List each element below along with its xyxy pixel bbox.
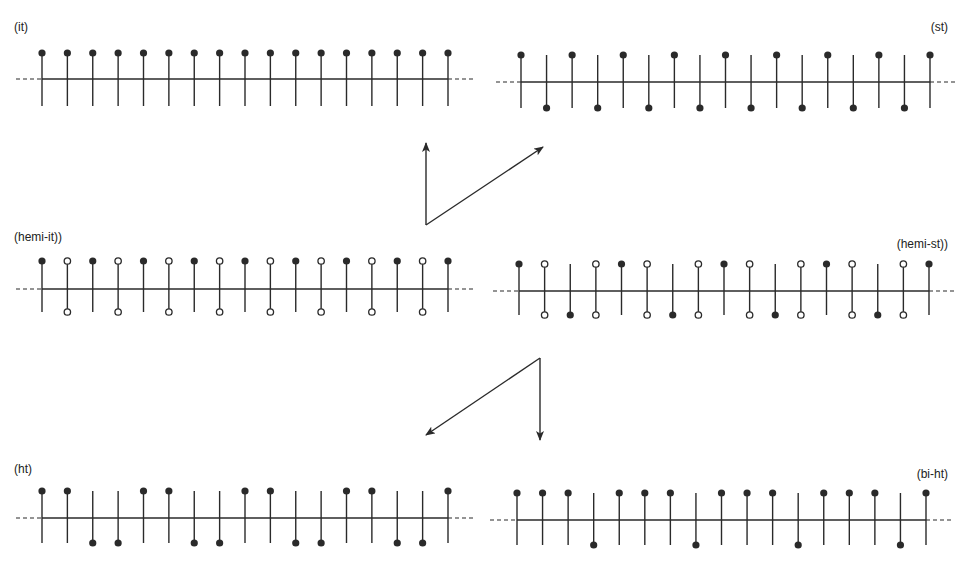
stem [89,491,96,547]
stem [875,51,882,108]
filled-dot-icon [140,49,147,56]
stem [720,260,727,315]
filled-dot-icon [720,260,727,267]
stem [64,487,71,543]
open-dot-icon [644,261,650,267]
stem [444,487,451,543]
stem [515,260,522,315]
panels-layer [16,49,956,548]
filled-dot-icon [191,49,198,56]
filled-dot-icon [590,541,597,548]
stem [165,487,172,543]
filled-dot-icon [191,539,198,546]
filled-dot-icon [394,49,401,56]
open-dot-icon [849,261,855,267]
stem [897,493,904,549]
filled-dot-icon [871,489,878,496]
open-dot-icon [216,309,222,315]
open-dot-icon [695,261,701,267]
filled-dot-icon [444,257,451,264]
stem [594,55,601,112]
filled-dot-icon [769,489,776,496]
filled-dot-icon [292,539,299,546]
filled-dot-icon [267,49,274,56]
filled-dot-icon [667,489,674,496]
filled-dot-icon [743,489,750,496]
filled-dot-icon [89,539,96,546]
filled-dot-icon [394,257,401,264]
filled-dot-icon [343,49,350,56]
filled-dot-icon [343,257,350,264]
stem [846,489,853,545]
stem [318,49,325,106]
filled-dot-icon [38,487,45,494]
stem [292,257,299,312]
filled-dot-icon [38,49,45,56]
open-dot-icon [419,309,425,315]
stem [89,257,96,312]
filled-dot-icon [874,311,881,318]
open-dot-icon [746,312,752,318]
stem [216,258,222,315]
stem [394,491,401,547]
filled-dot-icon [539,489,546,496]
filled-dot-icon [292,257,299,264]
filled-dot-icon [241,257,248,264]
stem [343,257,350,312]
stem [241,257,248,312]
open-dot-icon [419,258,425,264]
stem [539,489,546,545]
filled-dot-icon [241,49,248,56]
stem [318,491,325,547]
filled-dot-icon [925,260,932,267]
stem [922,489,929,545]
filled-dot-icon [191,257,198,264]
stem [140,257,147,312]
stem [590,493,597,549]
stem [38,257,45,312]
filled-dot-icon [696,104,703,111]
stem [64,49,71,106]
filled-dot-icon [824,51,831,58]
stem [267,487,274,543]
open-dot-icon [115,258,121,264]
filled-dot-icon [517,51,524,58]
filled-dot-icon [140,257,147,264]
filled-dot-icon [140,487,147,494]
filled-dot-icon [823,260,830,267]
stem [850,55,857,112]
stem [513,489,520,545]
stem [618,260,625,315]
open-dot-icon [64,258,70,264]
open-dot-icon [746,261,752,267]
stem [593,261,599,318]
filled-dot-icon [722,51,729,58]
filled-dot-icon [846,489,853,496]
open-dot-icon [166,309,172,315]
filled-dot-icon [444,49,451,56]
stem [718,489,725,545]
filled-dot-icon [419,539,426,546]
stem [849,261,855,318]
filled-dot-icon [569,51,576,58]
stem [820,489,827,545]
filled-dot-icon [318,539,325,546]
open-dot-icon [798,261,804,267]
panel-label-bi-ht: (bi-ht) [917,467,948,481]
stem [343,487,350,543]
stem [267,258,273,315]
open-dot-icon [115,309,121,315]
filled-dot-icon [773,51,780,58]
stem [925,260,932,315]
open-dot-icon [644,312,650,318]
panel-label-it: (it) [14,20,28,34]
panel-label-hemi-st: (hemi-st)) [897,237,948,251]
filled-dot-icon [394,539,401,546]
filled-dot-icon [926,51,933,58]
open-dot-icon [900,261,906,267]
filled-dot-icon [645,104,652,111]
filled-dot-icon [318,49,325,56]
stem [318,258,324,315]
filled-dot-icon [671,51,678,58]
filled-dot-icon [513,489,520,496]
